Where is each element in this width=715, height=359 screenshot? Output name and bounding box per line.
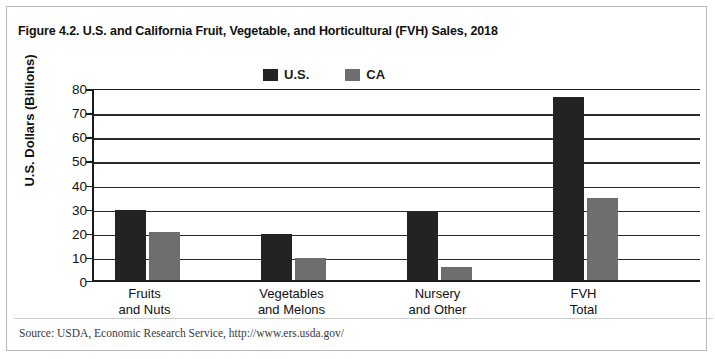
x-label-line2: and Melons [229,302,354,318]
y-axis-tick-labels: 80 70 60 50 40 30 20 10 0 [45,89,87,282]
x-label-line1: FVH [521,286,646,302]
legend-entry-ca: CA [345,67,385,82]
bar-ca-vegetables-and-melons [295,258,326,280]
gridline-40 [94,187,700,189]
y-tick-label: 20 [47,226,87,241]
legend-swatch-ca [345,69,360,81]
y-tick-label: 80 [47,82,87,97]
figure-container: Figure 4.2. U.S. and California Fruit, V… [6,6,707,351]
legend-entry-us: U.S. [263,67,309,82]
y-tick-label: 70 [47,106,87,121]
y-tick-label: 50 [47,154,87,169]
bar-us-fvh-total [553,97,584,280]
x-label-nursery-and-other: Nursery and Other [375,286,500,318]
plot-area [92,89,700,282]
gridline-70 [94,114,700,116]
y-tick-label: 30 [47,202,87,217]
y-tick-label: 60 [47,130,87,145]
y-tick-label: 10 [47,250,87,265]
y-tick-label: 0 [47,275,87,290]
source-note: Source: USDA, Economic Research Service,… [19,327,344,339]
bar-us-vegetables-and-melons [261,234,292,280]
bar-ca-fruits-and-nuts [149,232,180,280]
chart-legend: U.S. CA [263,67,385,82]
y-axis-title: U.S. Dollars (Billions) [22,21,37,221]
x-label-fruits-and-nuts: Fruits and Nuts [82,286,207,318]
legend-label-ca: CA [366,67,385,82]
legend-swatch-us [263,69,278,81]
source-divider [14,318,713,319]
x-axis-category-labels: Fruits and Nuts Vegetables and Melons Nu… [92,286,700,326]
x-label-vegetables-and-melons: Vegetables and Melons [229,286,354,318]
x-label-line1: Vegetables [229,286,354,302]
x-label-line1: Nursery [375,286,500,302]
bar-us-nursery-and-other [407,212,438,280]
x-label-line2: and Other [375,302,500,318]
gridline-50 [94,162,700,164]
legend-label-us: U.S. [284,67,309,82]
x-label-fvh-total: FVH Total [521,286,646,318]
x-label-line2: Total [521,302,646,318]
bar-ca-nursery-and-other [441,267,472,280]
bar-us-fruits-and-nuts [115,210,146,280]
gridline-60 [94,138,700,140]
figure-title: Figure 4.2. U.S. and California Fruit, V… [18,24,498,38]
x-label-line2: and Nuts [82,302,207,318]
y-tick-label: 40 [47,178,87,193]
x-label-line1: Fruits [82,286,207,302]
bar-ca-fvh-total [587,198,618,280]
